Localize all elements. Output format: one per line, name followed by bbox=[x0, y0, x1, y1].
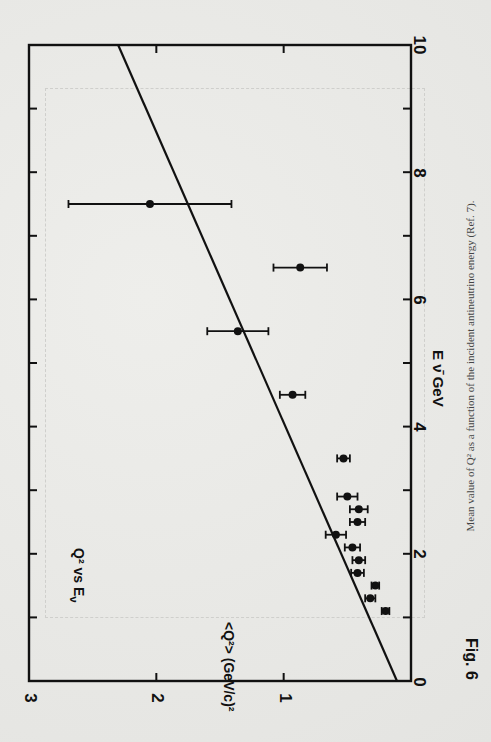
chart-plot bbox=[0, 0, 491, 742]
data-point bbox=[382, 607, 390, 615]
x-tick-label: 6 bbox=[409, 295, 429, 304]
x-tick-label: 0 bbox=[409, 677, 429, 686]
figure-label: Fig. 6 bbox=[462, 638, 480, 680]
data-point bbox=[348, 543, 356, 551]
x-axis-label: E ν̄ GeV bbox=[430, 350, 447, 407]
data-point bbox=[296, 264, 304, 272]
y-axis-label: <Q²> (GeV/c)² bbox=[221, 622, 237, 711]
data-point bbox=[343, 493, 351, 501]
data-point bbox=[289, 391, 297, 399]
data-point bbox=[354, 518, 362, 526]
figure-caption: Mean value of Q² as a function of the in… bbox=[464, 176, 476, 556]
data-point bbox=[354, 569, 362, 577]
data-point bbox=[332, 531, 340, 539]
data-point bbox=[371, 582, 379, 590]
data-point bbox=[366, 594, 374, 602]
data-point bbox=[234, 327, 242, 335]
y-tick-label: 3 bbox=[20, 693, 40, 702]
x-tick-label: 4 bbox=[409, 422, 429, 431]
x-tick-label: 8 bbox=[409, 168, 429, 177]
inset-title: Q² vs Eν bbox=[68, 548, 87, 603]
data-point bbox=[355, 505, 363, 513]
data-point bbox=[146, 200, 154, 208]
y-tick-label: 1 bbox=[275, 693, 295, 702]
fit-line bbox=[118, 45, 397, 681]
x-tick-label: 10 bbox=[409, 36, 429, 55]
y-tick-label: 2 bbox=[147, 693, 167, 702]
data-point bbox=[340, 454, 348, 462]
data-point bbox=[355, 556, 363, 564]
x-tick-label: 2 bbox=[409, 549, 429, 558]
